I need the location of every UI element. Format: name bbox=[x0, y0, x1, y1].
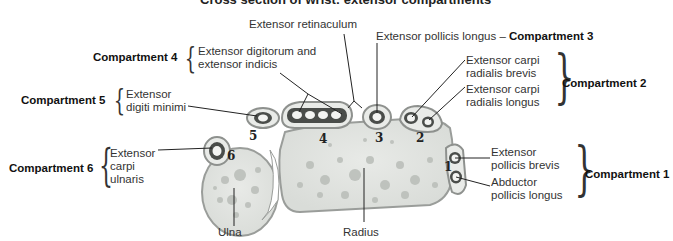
label-edm-line2: digiti minimi bbox=[126, 101, 186, 113]
label-apl-line2: pollicis longus bbox=[491, 189, 563, 201]
label-epl: Extensor pollicis longus – Compartment 3 bbox=[376, 30, 593, 42]
label-epb-line1: Extensor bbox=[491, 146, 536, 158]
label-compartment-1: Compartment 1 bbox=[585, 168, 669, 180]
label-extensor-retinaculum: Extensor retinaculum bbox=[249, 18, 357, 30]
label-compartment-3: Compartment 3 bbox=[509, 30, 593, 42]
label-edi-line1: Extensor digitorum and bbox=[198, 45, 316, 57]
label-edi-line2: extensor indicis bbox=[198, 58, 277, 70]
brace-compartment-5: { bbox=[114, 82, 125, 117]
number-2: 2 bbox=[416, 131, 424, 145]
number-6: 6 bbox=[227, 149, 235, 163]
label-ecu-line3: ulnaris bbox=[110, 173, 144, 185]
brace-compartment-4: { bbox=[185, 40, 196, 75]
label-epb-line2: pollicis brevis bbox=[491, 159, 559, 171]
label-apl-line1: Abductor bbox=[491, 176, 537, 188]
label-compartment-4: Compartment 4 bbox=[93, 51, 177, 63]
label-radius: Radius bbox=[343, 226, 379, 238]
number-4: 4 bbox=[319, 132, 327, 146]
number-1: 1 bbox=[444, 160, 452, 174]
label-compartment-5: Compartment 5 bbox=[21, 94, 105, 106]
label-edm-line1: Extensor bbox=[126, 88, 171, 100]
label-compartment-6: Compartment 6 bbox=[9, 162, 93, 174]
number-3: 3 bbox=[375, 131, 383, 145]
dash: – bbox=[499, 30, 505, 42]
label-ecrl-line2: radialis longus bbox=[466, 96, 540, 108]
number-5: 5 bbox=[249, 129, 257, 143]
label-ecrl-line1: Extensor carpi bbox=[466, 83, 540, 95]
label-ulna: Ulna bbox=[218, 226, 242, 238]
label-epl-text: Extensor pollicis longus bbox=[376, 30, 496, 42]
label-ecrb-line2: radialis brevis bbox=[466, 67, 536, 79]
wrist-cross-section-diagram: Cross section of wrist: extensor compart… bbox=[0, 0, 673, 241]
label-ecrb-line1: Extensor carpi bbox=[466, 54, 540, 66]
label-ecu-line1: Extensor bbox=[110, 147, 155, 159]
label-compartment-2: Compartment 2 bbox=[562, 77, 646, 89]
label-ecu-line2: carpi bbox=[110, 160, 135, 172]
